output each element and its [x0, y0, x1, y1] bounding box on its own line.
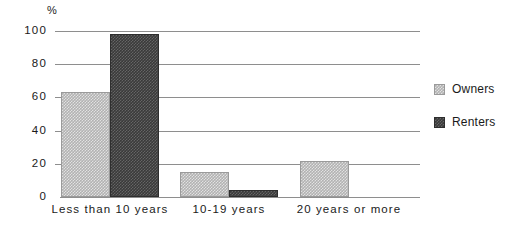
axis-baseline-0: [60, 197, 420, 198]
bar-chart-figure: % 100 80 60 40 20 0 Less than 10 years 1: [0, 0, 506, 229]
legend: Owners Renters: [434, 82, 495, 148]
tick-stub-80: [55, 64, 61, 65]
bar-renters-less-than-10-years: [110, 34, 159, 197]
y-tick-label-0: 0: [1, 191, 47, 203]
legend-item-renters: Renters: [434, 115, 495, 129]
bar-owners-20-years-or-more: [300, 161, 349, 197]
bar-renters-10-19-years: [229, 190, 278, 197]
y-axis-unit-label: %: [47, 4, 57, 16]
category-label-10-19-years: 10-19 years: [164, 203, 294, 215]
legend-swatch-owners-icon: [434, 84, 445, 95]
y-tick-label-80: 80: [1, 58, 47, 70]
bar-owners-10-19-years: [180, 172, 229, 197]
y-tick-label-40: 40: [1, 125, 47, 137]
legend-label-renters: Renters: [452, 115, 495, 129]
legend-label-owners: Owners: [452, 82, 495, 96]
category-label-less-than-10-years: Less than 10 years: [45, 203, 175, 215]
category-label-20-years-or-more: 20 years or more: [284, 203, 414, 215]
y-tick-label-60: 60: [1, 91, 47, 103]
bar-owners-less-than-10-years: [61, 92, 110, 197]
legend-swatch-renters-icon: [434, 117, 445, 128]
y-tick-label-20: 20: [1, 158, 47, 170]
gridline-100: [60, 31, 420, 32]
y-tick-label-100: 100: [1, 25, 47, 37]
legend-item-owners: Owners: [434, 82, 495, 96]
tick-stub-100: [55, 31, 61, 32]
plot-area: % 100 80 60 40 20 0 Less than 10 years 1: [0, 0, 506, 229]
